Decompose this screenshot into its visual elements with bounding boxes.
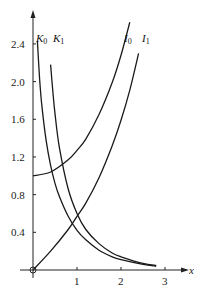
label-i1: I1 xyxy=(141,32,150,46)
curve-k0 xyxy=(37,41,156,266)
label-i0: I0 xyxy=(123,32,132,46)
curve-i1 xyxy=(33,53,139,270)
x-tick-label: 1 xyxy=(74,275,80,287)
y-tick-label: 1.6 xyxy=(11,113,25,125)
x-tick-label: 3 xyxy=(162,275,168,287)
y-tick-label: 2.0 xyxy=(11,76,25,88)
label-k1: K1 xyxy=(52,32,64,46)
x-axis-title: x xyxy=(188,264,194,276)
axes xyxy=(20,10,189,278)
curves xyxy=(33,22,156,270)
bessel-functions-chart: 1230.40.81.21.62.02.4 x K0 K1 I0 I1 xyxy=(0,0,199,297)
tick-labels: 1230.40.81.21.62.02.4 xyxy=(11,38,168,287)
label-k0: K0 xyxy=(35,32,47,46)
y-tick-label: 1.2 xyxy=(11,151,25,163)
x-tick-label: 2 xyxy=(118,275,124,287)
y-tick-label: 0.4 xyxy=(11,226,25,238)
curve-k1 xyxy=(51,65,157,266)
y-axis-arrow-icon xyxy=(31,10,36,18)
y-tick-label: 2.4 xyxy=(11,38,25,50)
tick-marks xyxy=(33,44,165,270)
y-tick-label: 0.8 xyxy=(11,189,25,201)
x-axis-arrow-icon xyxy=(181,268,189,273)
curve-labels: K0 K1 I0 I1 xyxy=(35,32,150,46)
